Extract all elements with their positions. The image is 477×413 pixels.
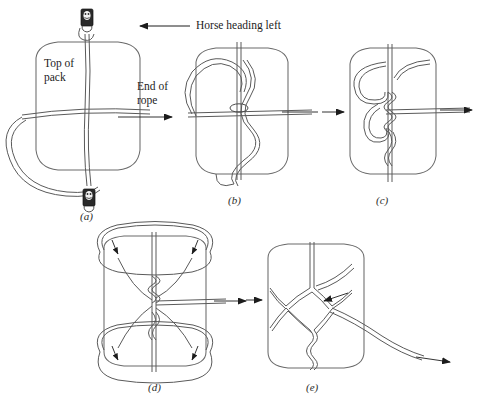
panel-caption-e: (e) bbox=[306, 381, 318, 393]
cinch-buckle-icon-top bbox=[81, 9, 93, 32]
panel-a-drawing bbox=[6, 28, 150, 196]
top-of-pack-label: Top of pack bbox=[44, 57, 74, 85]
cinch-buckle-icon-bottom bbox=[83, 189, 95, 212]
panel-b-drawing bbox=[185, 42, 312, 186]
figure-canvas: Top of pack End of rope Horse heading le… bbox=[0, 0, 477, 413]
horse-heading-label: Horse heading left bbox=[196, 19, 281, 32]
panel-caption-d: (d) bbox=[148, 381, 161, 393]
panel-d-drawing bbox=[97, 222, 226, 384]
panel-caption-c: (c) bbox=[376, 194, 388, 206]
panel-c-drawing bbox=[350, 44, 470, 182]
panel-e-drawing bbox=[268, 242, 424, 370]
panel-caption-b: (b) bbox=[228, 194, 241, 206]
panel-caption-a: (a) bbox=[80, 210, 93, 222]
end-of-rope-label: End of rope bbox=[137, 80, 168, 108]
